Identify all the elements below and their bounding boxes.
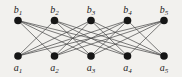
graph-node-label-a5: a5 [160, 62, 169, 75]
graph-edges-layer [18, 21, 164, 57]
graph-node-label-a4: a4 [123, 62, 132, 75]
graph-node-a4 [124, 52, 132, 60]
bipartite-graph-figure: b1b2b3b4b5a1a2a3a4a5 [0, 0, 182, 77]
graph-node-b2 [51, 17, 59, 25]
graph-node-label-a2: a2 [50, 62, 59, 75]
graph-node-label-b2: b2 [50, 4, 59, 17]
graph-node-b1 [14, 17, 22, 25]
graph-node-label-a1: a1 [14, 62, 23, 75]
graph-node-label-b1: b1 [14, 4, 23, 17]
graph-node-b5 [160, 17, 168, 25]
graph-node-a1 [14, 52, 22, 60]
graph-node-b3 [87, 17, 95, 25]
graph-node-a2 [51, 52, 59, 60]
graph-node-label-b4: b4 [123, 4, 132, 17]
graph-node-label-b3: b3 [87, 4, 96, 17]
graph-node-label-b5: b5 [160, 4, 169, 17]
graph-node-b4 [124, 17, 132, 25]
graph-node-a3 [87, 52, 95, 60]
graph-node-a5 [160, 52, 168, 60]
graph-node-label-a3: a3 [87, 62, 96, 75]
bipartite-graph-svg: b1b2b3b4b5a1a2a3a4a5 [0, 0, 182, 77]
graph-labels-layer: b1b2b3b4b5a1a2a3a4a5 [14, 4, 169, 75]
